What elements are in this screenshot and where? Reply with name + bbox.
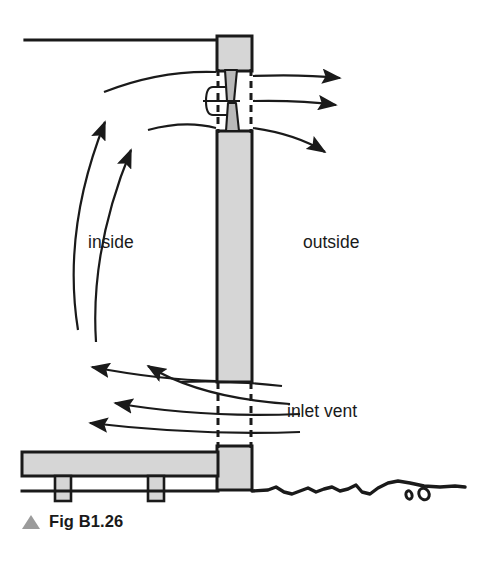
triangle-up-icon <box>22 515 40 529</box>
outlet-vent-flap-lower <box>226 103 239 131</box>
figure-b1-26: inside outside inlet vent Fig B1.26 <box>0 0 477 570</box>
ventilation-cross-section-diagram: inside outside inlet vent <box>0 0 477 570</box>
outlet-vent-flap-upper <box>225 70 237 101</box>
floor-slab <box>22 452 218 476</box>
figure-caption-text: Fig B1.26 <box>49 512 123 531</box>
figure-caption: Fig B1.26 <box>22 512 123 531</box>
airflow-inlet-arrows <box>90 366 300 433</box>
airflow-outlet-arrow-3 <box>253 128 325 152</box>
label-outside: outside <box>303 232 359 252</box>
pebble-small <box>405 490 413 500</box>
airflow-feed-line-lower <box>148 124 216 130</box>
label-inside: inside <box>88 232 134 252</box>
airflow-feed-line-upper <box>104 72 216 92</box>
airflow-circulation-arrow-outer <box>74 122 105 330</box>
airflow-outlet-arrow-1 <box>253 75 340 78</box>
label-inlet-vent: inlet vent <box>287 401 357 421</box>
airflow-inlet-arrow-4 <box>90 423 300 433</box>
wall-base-block <box>217 446 252 490</box>
airflow-interior-to-outlet <box>104 72 216 130</box>
airflow-inlet-arrow-3 <box>115 403 300 415</box>
floor-joist-right <box>148 476 164 501</box>
airflow-outlet-arrow-2 <box>253 101 336 105</box>
outlet-vent <box>203 69 251 133</box>
floor-joist-left <box>55 476 71 501</box>
pebble-large <box>417 486 431 501</box>
wall-head-block <box>217 36 252 71</box>
ground-line <box>252 481 465 494</box>
wall <box>217 131 252 382</box>
airflow-inlet-guide-top <box>180 382 282 387</box>
airflow-outlet-arrows <box>253 75 340 152</box>
